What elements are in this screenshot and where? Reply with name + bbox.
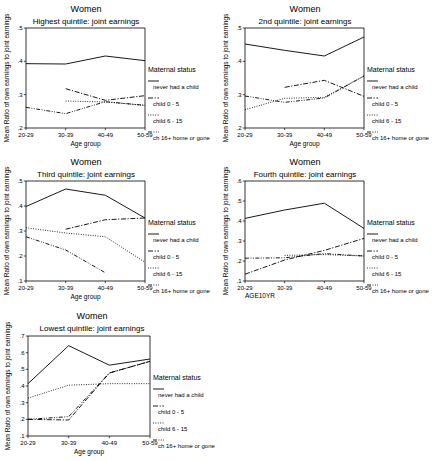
panel-subtitle: 2nd quintile: joint earnings <box>259 17 352 26</box>
y-tick-label: .3 <box>236 238 242 244</box>
y-tick-label: .7 <box>19 333 25 339</box>
x-tick-label: 30-39 <box>277 285 293 291</box>
y-tick-label: .6 <box>236 178 242 184</box>
x-axis-title: Age group <box>71 140 101 148</box>
axis-lines <box>28 336 150 436</box>
legend-label-1: never had a child <box>153 84 199 90</box>
legend-label-2: child 0 - 5 <box>372 254 399 260</box>
y-tick-label: .4 <box>17 58 23 64</box>
legend-label-4: ch 16+ home or gone <box>153 135 211 141</box>
axis-lines <box>26 28 145 128</box>
x-tick-label: 30-39 <box>277 132 293 138</box>
legend-title: Maternal status <box>367 219 415 226</box>
y-tick-label: .5 <box>236 198 242 204</box>
x-tick-label: 20-29 <box>20 440 36 446</box>
series-line-3 <box>28 384 150 399</box>
x-tick-label: 40-49 <box>98 285 114 291</box>
y-axis-title: Mean Ratio of own earnings to joint earn… <box>4 321 12 450</box>
x-axis-title: Age group <box>71 293 101 301</box>
chart-panel-third-quintile: WomenThird quintile: joint earnings.1.2.… <box>0 153 219 306</box>
y-tick-label: .5 <box>19 366 25 372</box>
legend-label-1: never had a child <box>372 84 418 90</box>
y-tick-label: .4 <box>236 218 242 224</box>
legend-label-3: child 6 - 15 <box>372 118 402 124</box>
chart-svg-lowest-quintile: WomenLowest quintile: joint earnings.1.2… <box>0 306 228 461</box>
series-line-2 <box>28 361 150 420</box>
chart-panel-2nd-quintile: Women2nd quintile: joint earnings.2.3.4.… <box>219 0 438 153</box>
x-tick-label: 40-49 <box>102 440 118 446</box>
x-tick-label: 20-29 <box>237 132 253 138</box>
series-line-4 <box>26 102 145 114</box>
legend-label-2: child 0 - 5 <box>153 254 180 260</box>
x-tick-label: 20-29 <box>18 132 34 138</box>
chart-svg-fourth-quintile: WomenFourth quintile: joint earnings.1.2… <box>219 153 438 306</box>
x-tick-label: 40-49 <box>98 132 114 138</box>
axis-lines <box>26 181 145 281</box>
legend-label-1: never had a child <box>153 237 199 243</box>
series-line-4 <box>26 237 105 273</box>
x-axis-title: Age group <box>74 448 104 456</box>
series-line-3 <box>26 228 145 263</box>
x-axis-title: Age group <box>290 140 320 148</box>
y-tick-label: .5 <box>17 25 23 31</box>
y-tick-label: .3 <box>236 92 242 98</box>
legend-label-2: child 0 - 5 <box>158 409 185 415</box>
legend-title: Maternal status <box>153 374 201 381</box>
x-tick-label: 30-39 <box>58 285 74 291</box>
panel-main-title: Women <box>77 311 108 321</box>
y-tick-label: .3 <box>17 92 23 98</box>
y-tick-label: .3 <box>17 228 23 234</box>
y-axis-title: Mean Ratio of own earnings to joint earn… <box>3 13 11 142</box>
x-tick-label: 40-49 <box>317 285 333 291</box>
series-line-1 <box>26 56 145 64</box>
axis-lines <box>245 181 364 281</box>
y-tick-label: .6 <box>19 350 25 356</box>
y-tick-label: .2 <box>19 416 25 422</box>
legend-label-4: ch 16+ home or gone <box>372 135 430 141</box>
chart-panel-lowest-quintile: WomenLowest quintile: joint earnings.1.2… <box>0 306 228 461</box>
series-line-3 <box>245 76 364 110</box>
panel-main-title: Women <box>290 4 321 14</box>
y-tick-label: .1 <box>236 278 242 284</box>
legend-label-4: ch 16+ home or gone <box>153 288 211 294</box>
y-tick-label: .2 <box>236 125 242 131</box>
axis-lines <box>245 28 364 128</box>
y-tick-label: .4 <box>17 203 23 209</box>
y-axis-title: Mean Ratio of own earnings to joint earn… <box>222 166 230 295</box>
x-tick-label: 40-49 <box>317 132 333 138</box>
x-tick-label: 30-39 <box>58 132 74 138</box>
legend-title: Maternal status <box>367 66 415 73</box>
chart-svg-third-quintile: WomenThird quintile: joint earnings.1.2.… <box>0 153 219 306</box>
y-tick-label: .4 <box>19 383 25 389</box>
legend-label-2: child 0 - 5 <box>153 101 180 107</box>
panel-main-title: Women <box>71 157 102 167</box>
panel-subtitle: Third quintile: joint earnings <box>37 170 135 179</box>
y-tick-label: .5 <box>17 178 23 184</box>
panel-main-title: Women <box>71 4 102 14</box>
y-tick-label: .2 <box>236 258 242 264</box>
legend-label-4: ch 16+ home or gone <box>372 288 430 294</box>
y-tick-label: .1 <box>19 433 25 439</box>
chart-svg-highest-quintile: WomenHighest quintile: joint earnings.2.… <box>0 0 219 153</box>
series-line-1 <box>26 189 145 218</box>
y-axis-title: Mean Ratio of own earnings to joint earn… <box>222 13 230 142</box>
x-tick-label: 20-29 <box>237 285 253 291</box>
series-line-4 <box>28 361 150 419</box>
legend-label-3: child 6 - 15 <box>158 426 188 432</box>
legend-label-3: child 6 - 15 <box>153 271 183 277</box>
series-line-2 <box>66 89 145 101</box>
y-tick-label: .3 <box>19 400 25 406</box>
series-line-1 <box>28 346 150 384</box>
panel-main-title: Women <box>290 157 321 167</box>
legend-title: Maternal status <box>148 219 196 226</box>
series-line-1 <box>245 37 364 56</box>
legend-label-4: ch 16+ home or gone <box>158 443 216 449</box>
y-tick-label: .4 <box>236 58 242 64</box>
chart-panel-fourth-quintile: WomenFourth quintile: joint earnings.1.2… <box>219 153 438 306</box>
series-line-2 <box>66 218 145 229</box>
legend-label-1: never had a child <box>158 392 204 398</box>
x-axis-title: AGE10YR <box>245 292 275 299</box>
legend-title: Maternal status <box>148 66 196 73</box>
legend-label-1: never had a child <box>372 237 418 243</box>
legend-label-3: child 6 - 15 <box>372 271 402 277</box>
